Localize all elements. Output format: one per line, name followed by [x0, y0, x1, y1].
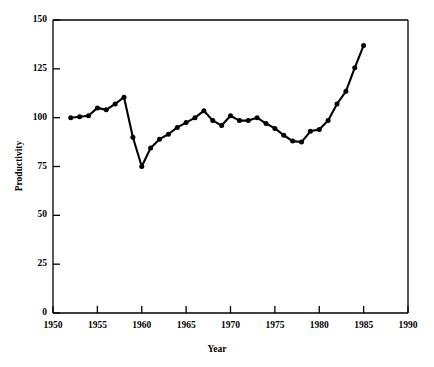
y-axis-title: Productivity [14, 141, 24, 192]
data-point-marker [95, 105, 100, 110]
axes-frame [53, 20, 408, 313]
data-point-marker [104, 107, 109, 112]
y-tick-label: 150 [33, 15, 47, 25]
x-tick-label: 1970 [217, 321, 245, 331]
chart-figure: Productivity 195019551960196519701975198… [0, 0, 434, 367]
data-point-marker [219, 123, 224, 128]
data-point-marker [308, 129, 313, 134]
x-axis-ticks [53, 306, 408, 313]
line-chart-plot: Productivity [0, 0, 434, 367]
data-point-marker [290, 139, 295, 144]
data-point-marker [237, 118, 242, 123]
data-point-marker [201, 108, 206, 113]
data-point-marker [246, 118, 251, 123]
data-point-marker [122, 95, 127, 100]
data-point-marker [130, 135, 135, 140]
y-axis-ticks [53, 20, 60, 313]
data-point-marker [326, 118, 331, 123]
data-point-marker [352, 65, 357, 70]
data-point-marker [255, 115, 260, 120]
data-point-marker [139, 164, 144, 169]
x-tick-label: 1960 [128, 321, 156, 331]
y-tick-label: 125 [33, 64, 47, 74]
data-point-marker [166, 132, 171, 137]
y-tick-label: 50 [38, 210, 48, 220]
x-tick-label: 1950 [39, 321, 67, 331]
data-point-marker [343, 89, 348, 94]
data-point-marker [361, 43, 366, 48]
y-tick-label: 25 [38, 259, 48, 269]
data-point-marker [272, 126, 277, 131]
data-point-marker [228, 113, 233, 118]
data-point-marker [184, 120, 189, 125]
x-tick-label: 1965 [172, 321, 200, 331]
y-tick-label: 75 [38, 162, 48, 172]
data-point-marker [77, 114, 82, 119]
data-point-marker [210, 118, 215, 123]
data-point-marker [175, 125, 180, 130]
data-point-marker [299, 140, 304, 145]
x-axis-title: Year [0, 344, 434, 354]
data-point-marker [68, 115, 73, 120]
x-tick-label: 1990 [394, 321, 422, 331]
data-point-marker [335, 101, 340, 106]
data-point-marker [317, 127, 322, 132]
x-tick-label: 1985 [350, 321, 378, 331]
y-tick-label: 0 [42, 308, 47, 318]
data-point-marker [193, 115, 198, 120]
data-point-marker [281, 133, 286, 138]
data-point-marker [264, 121, 269, 126]
x-tick-label: 1975 [261, 321, 289, 331]
data-point-marker [113, 101, 118, 106]
data-point-marker [157, 137, 162, 142]
y-tick-label: 100 [33, 113, 47, 123]
data-point-marker [86, 113, 91, 118]
data-point-marker [148, 145, 153, 150]
x-tick-label: 1980 [305, 321, 333, 331]
x-tick-label: 1955 [83, 321, 111, 331]
